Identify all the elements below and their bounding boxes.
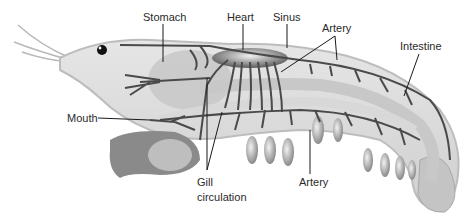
label-heart: Heart (227, 11, 254, 23)
label-gill-circulation: Gill circulation (197, 176, 247, 203)
label-mouth: Mouth (67, 112, 98, 124)
label-artery-bottom: Artery (299, 176, 328, 188)
label-stomach: Stomach (143, 11, 186, 23)
label-artery-top: Artery (322, 22, 351, 34)
eye (97, 45, 107, 55)
label-intestine: Intestine (400, 40, 442, 52)
label-gill-line1: Gill (197, 176, 247, 188)
label-gill-line2: circulation (197, 191, 247, 203)
label-sinus: Sinus (273, 11, 301, 23)
